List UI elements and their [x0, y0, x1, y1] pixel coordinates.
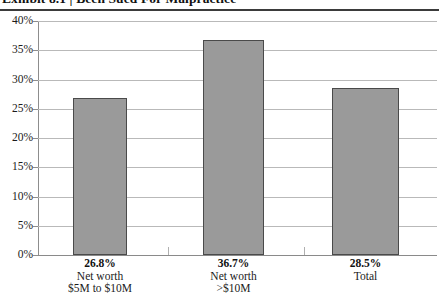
category-name-line2: >$10M	[164, 282, 304, 295]
page-title: Exhibit 8.1 | Been Sued For Malpractice	[2, 0, 236, 7]
x-axis-category-label: 36.7%Net worth>$10M	[164, 257, 304, 295]
y-axis-tick	[33, 50, 38, 51]
bar	[73, 98, 127, 255]
category-name-line1: Net worth	[30, 270, 170, 283]
category-name-line1: Total	[296, 270, 436, 283]
chart-plot-area	[38, 21, 437, 255]
category-name-line1: Net worth	[164, 270, 304, 283]
y-axis-tick	[33, 167, 38, 168]
y-axis-tick-label: 15%	[3, 161, 33, 173]
y-axis-tick-label: 5%	[3, 220, 33, 232]
y-axis-tick-label: 20%	[3, 132, 33, 144]
y-axis-tick	[33, 138, 38, 139]
y-axis-tick-label: 25%	[3, 103, 33, 115]
y-axis-tick	[33, 197, 38, 198]
y-axis-tick-label: 35%	[3, 44, 33, 56]
bar	[203, 40, 264, 255]
bar-value-label: 36.7%	[164, 257, 304, 270]
y-axis-tick-label: 0%	[3, 249, 33, 261]
bar	[332, 88, 399, 255]
category-separator	[168, 247, 169, 255]
bar-value-label: 28.5%	[296, 257, 436, 270]
y-axis-labels: 40%35%30%25%20%15%10%5%0%	[0, 21, 33, 256]
y-axis-tick-label: 40%	[3, 15, 33, 27]
y-axis-tick	[33, 255, 38, 256]
y-axis-tick-label: 30%	[3, 74, 33, 86]
category-separator	[304, 247, 305, 255]
y-axis-tick	[33, 21, 38, 22]
x-axis-category-label: 26.8%Net worth$5M to $10M	[30, 257, 170, 295]
y-axis-tick	[33, 109, 38, 110]
y-axis-tick	[33, 80, 38, 81]
bar-value-label: 26.8%	[30, 257, 170, 270]
category-name-line2: $5M to $10M	[30, 282, 170, 295]
x-axis-category-label: 28.5%Total	[296, 257, 436, 282]
gridline	[38, 255, 437, 256]
y-axis-tick	[33, 226, 38, 227]
y-axis-tick-label: 10%	[3, 191, 33, 203]
gridline	[38, 21, 437, 22]
x-axis-labels: 26.8%Net worth$5M to $10M36.7%Net worth>…	[38, 257, 437, 296]
title-divider	[0, 9, 439, 11]
